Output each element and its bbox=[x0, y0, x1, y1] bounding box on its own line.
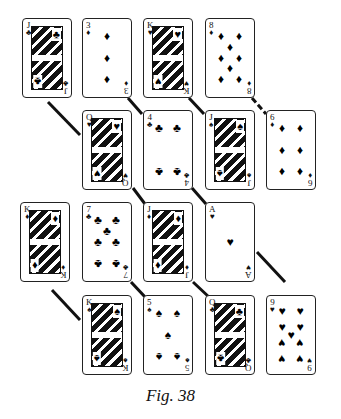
clubs-icon: ♣ bbox=[33, 75, 42, 88]
clubs-icon: ♣ bbox=[173, 122, 181, 134]
clubs-icon: ♣ bbox=[173, 166, 181, 178]
diamonds-icon: ♦ bbox=[297, 166, 303, 178]
hearts-icon: ♥ bbox=[287, 329, 294, 341]
clubs-icon: ♣ bbox=[94, 214, 102, 226]
clubs-icon: ♣ bbox=[245, 356, 252, 364]
card-queen-of-clubs: Q♣ ♣♣ Q♣ bbox=[205, 295, 255, 375]
diamonds-icon: ♦ bbox=[218, 74, 224, 86]
card-layout-figure: J♣ ♣♣ J♣ 3♦ ♦ ♦ ♦ 3♦ K♥ ♥♥ K♥ 8♦ ♦ ♦ ♦ ♦… bbox=[0, 0, 341, 419]
diamonds-icon: ♦ bbox=[174, 212, 182, 225]
spades-icon: ♠ bbox=[122, 356, 129, 364]
spades-icon: ♠ bbox=[113, 305, 121, 318]
hearts-icon: ♥ bbox=[112, 120, 121, 133]
spades-icon: ♠ bbox=[247, 171, 251, 179]
diamonds-icon: ♦ bbox=[227, 63, 233, 75]
hearts-icon: ♥ bbox=[307, 356, 312, 364]
diamonds-icon: ♦ bbox=[31, 259, 39, 272]
diamonds-icon: ♦ bbox=[279, 144, 285, 156]
court-figure-queen: ♥♥ bbox=[91, 118, 123, 182]
court-figure-jack: ♣♣ bbox=[31, 26, 63, 90]
card-five-of-spades: 5♠ ♠ ♠ ♠ ♠ ♠ 5♠ bbox=[143, 295, 193, 375]
clubs-icon: ♣ bbox=[94, 236, 102, 248]
diamonds-icon: ♦ bbox=[147, 213, 151, 221]
court-figure-jack: ♦♦ bbox=[152, 210, 184, 274]
spades-icon: ♠ bbox=[147, 306, 152, 314]
diamonds-icon: ♦ bbox=[60, 263, 67, 271]
hearts-icon: ♥ bbox=[278, 353, 285, 365]
clubs-icon: ♣ bbox=[216, 352, 225, 365]
diamonds-icon: ♦ bbox=[297, 122, 303, 134]
card-seven-of-clubs: 7♣ ♣ ♣ ♣ ♣ ♣ ♣ ♣ 7♣ bbox=[82, 202, 132, 282]
diamonds-icon: ♦ bbox=[308, 171, 313, 179]
figure-caption: Fig. 38 bbox=[0, 386, 341, 406]
connector-jc-qh bbox=[48, 102, 80, 135]
clubs-icon: ♣ bbox=[123, 263, 128, 271]
card-nine-of-hearts: 9♥ ♥ ♥ ♥ ♥ ♥ ♥ ♥ ♥ ♥ 9♥ bbox=[266, 295, 316, 375]
card-jack-of-clubs: J♣ ♣♣ J♣ bbox=[22, 18, 72, 98]
diamonds-icon: ♦ bbox=[270, 121, 275, 129]
hearts-icon: ♥ bbox=[93, 167, 102, 180]
connector-4c-ah bbox=[192, 188, 206, 204]
spades-icon: ♠ bbox=[165, 329, 171, 341]
clubs-icon: ♣ bbox=[235, 305, 244, 318]
diamonds-icon: ♦ bbox=[279, 122, 285, 134]
hearts-icon: ♥ bbox=[245, 263, 252, 271]
card-king-of-diamonds: K♦ ♦♦ K♦ bbox=[20, 202, 70, 282]
diamonds-icon: ♦ bbox=[104, 74, 110, 86]
clubs-icon: ♣ bbox=[184, 171, 189, 179]
hearts-icon: ♥ bbox=[154, 75, 163, 88]
card-four-of-clubs: 4♣ ♣ ♣ ♣ ♣ 4♣ bbox=[143, 110, 193, 190]
spades-icon: ♠ bbox=[93, 352, 101, 365]
connector-qh-jd bbox=[133, 188, 145, 204]
diamonds-icon: ♦ bbox=[297, 144, 303, 156]
card-queen-of-hearts: Q♥ ♥♥ Q♥ bbox=[82, 110, 132, 190]
court-figure-king: ♦♦ bbox=[29, 210, 61, 274]
clubs-icon: ♣ bbox=[52, 28, 61, 41]
spades-icon: ♠ bbox=[156, 351, 162, 363]
hearts-icon: ♥ bbox=[278, 337, 285, 349]
hearts-icon: ♥ bbox=[296, 305, 303, 317]
spades-icon: ♠ bbox=[156, 307, 162, 319]
spades-icon: ♠ bbox=[216, 167, 224, 180]
court-figure-queen: ♣♣ bbox=[214, 303, 246, 367]
diamonds-icon: ♦ bbox=[247, 79, 252, 87]
diamonds-icon: ♦ bbox=[218, 30, 224, 42]
clubs-icon: ♣ bbox=[94, 258, 102, 270]
diamonds-icon: ♦ bbox=[86, 29, 91, 37]
clubs-icon: ♣ bbox=[112, 236, 120, 248]
diamonds-icon: ♦ bbox=[185, 263, 189, 271]
spades-icon: ♠ bbox=[174, 351, 180, 363]
hearts-icon: ♥ bbox=[296, 353, 303, 365]
card-eight-of-diamonds: 8♦ ♦ ♦ ♦ ♦ ♦ ♦ ♦ ♦ 8♦ bbox=[205, 18, 255, 98]
card-jack-of-spades: J♠ ♠♠ J♠ bbox=[205, 110, 255, 190]
hearts-icon: ♥ bbox=[278, 305, 285, 317]
spades-icon: ♠ bbox=[174, 307, 180, 319]
diamonds-icon: ♦ bbox=[104, 52, 110, 64]
card-king-of-hearts: K♥ ♥♥ K♥ bbox=[143, 18, 193, 98]
diamonds-icon: ♦ bbox=[279, 166, 285, 178]
spades-icon: ♠ bbox=[209, 121, 213, 129]
hearts-icon: ♥ bbox=[122, 171, 129, 179]
clubs-icon: ♣ bbox=[112, 214, 120, 226]
clubs-icon: ♣ bbox=[112, 258, 120, 270]
connector-kd-ks bbox=[52, 290, 80, 320]
card-king-of-spades: K♠ ♠♠ K♠ bbox=[82, 295, 132, 375]
diamonds-icon: ♦ bbox=[104, 30, 110, 42]
diamonds-icon: ♦ bbox=[227, 41, 233, 53]
hearts-icon: ♥ bbox=[278, 321, 285, 333]
diamonds-icon: ♦ bbox=[124, 79, 129, 87]
diamonds-icon: ♦ bbox=[209, 29, 214, 37]
hearts-icon: ♥ bbox=[226, 236, 233, 248]
card-six-of-diamonds: 6♦ ♦ ♦ ♦ ♦ ♦ ♦ 6♦ bbox=[266, 110, 316, 190]
court-figure-king: ♠♠ bbox=[91, 303, 123, 367]
hearts-icon: ♥ bbox=[183, 79, 190, 87]
hearts-icon: ♥ bbox=[296, 337, 303, 349]
connector-ah-9h bbox=[257, 252, 285, 282]
clubs-icon: ♣ bbox=[155, 122, 163, 134]
card-ace-of-hearts: A♥ ♥ A♥ bbox=[205, 202, 255, 282]
hearts-icon: ♥ bbox=[296, 321, 303, 333]
diamonds-icon: ♦ bbox=[154, 259, 162, 272]
clubs-icon: ♣ bbox=[155, 166, 163, 178]
court-figure-jack: ♠♠ bbox=[214, 118, 246, 182]
clubs-icon: ♣ bbox=[63, 79, 68, 87]
